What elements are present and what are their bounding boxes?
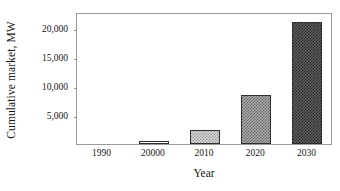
x-axis-tick-label: 20000 bbox=[141, 148, 165, 158]
x-axis-tick-label: 1990 bbox=[92, 148, 111, 158]
bar-chart: Cumulative market, MW 5,00010,00015,0002… bbox=[0, 0, 340, 191]
plot-area bbox=[76, 13, 332, 145]
x-axis-title: Year bbox=[76, 167, 332, 179]
y-axis-tick-labels: 5,00010,00015,00020,000 bbox=[22, 13, 72, 145]
x-axis-tick-label: 2030 bbox=[297, 148, 316, 158]
y-axis-tick-label: 5,000 bbox=[47, 111, 68, 121]
y-axis-tick-label: 15,000 bbox=[42, 53, 68, 63]
y-axis-tick-mark bbox=[74, 88, 77, 89]
y-axis-tick-label: 20,000 bbox=[42, 24, 68, 34]
bars-layer bbox=[77, 14, 331, 144]
x-axis-tick-labels: 199020000201020202030 bbox=[76, 148, 332, 164]
x-axis-title-label: Year bbox=[193, 167, 214, 179]
y-axis-tick-label: 10,000 bbox=[42, 82, 68, 92]
x-axis-tick-label: 2010 bbox=[195, 148, 214, 158]
bar bbox=[139, 141, 169, 144]
bar bbox=[190, 130, 220, 144]
y-axis-title-label: Cumulative market, MW bbox=[5, 21, 17, 138]
bar bbox=[241, 95, 271, 144]
y-axis-tick-mark bbox=[74, 117, 77, 118]
bar bbox=[292, 22, 322, 144]
y-axis-tick-mark bbox=[74, 30, 77, 31]
x-axis-tick-label: 2020 bbox=[246, 148, 265, 158]
y-axis-title: Cumulative market, MW bbox=[0, 0, 22, 160]
y-axis-tick-mark bbox=[74, 59, 77, 60]
